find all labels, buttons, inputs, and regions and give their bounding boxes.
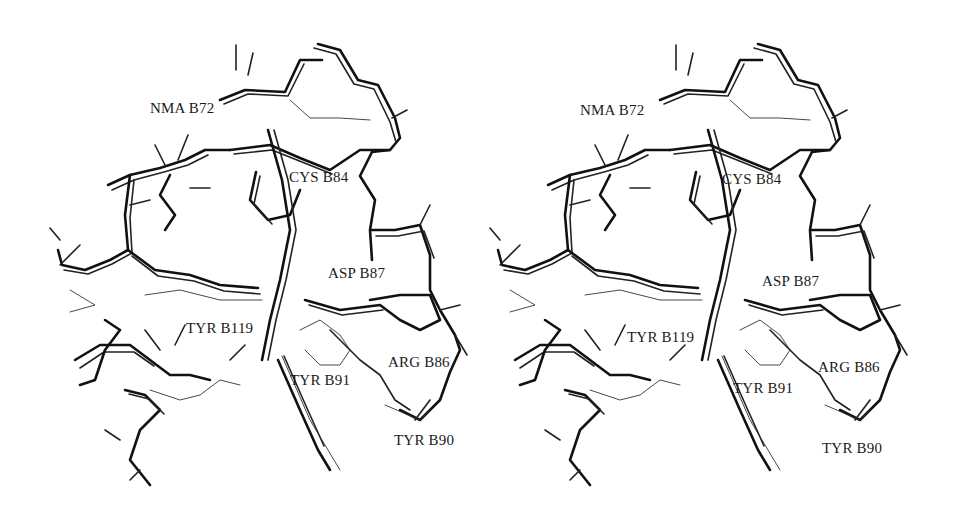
backbone-strands [50,44,467,485]
residue-label-tyr-b91: TYR B91 [290,373,350,388]
backbone-strands [490,44,907,485]
stereo-panel-left: NMA B72 CYS B84 ASP B87 TYR B119 TYR B91… [0,0,483,517]
residue-label-asp-b87: ASP B87 [762,274,819,289]
residue-label-cys-b84: CYS B84 [289,170,348,185]
residue-label-tyr-b119: TYR B119 [627,330,694,345]
residue-label-arg-b86: ARG B86 [818,360,880,375]
residue-label-tyr-b91: TYR B91 [733,381,793,396]
residue-label-tyr-b119: TYR B119 [186,321,253,336]
residue-label-nma-b72: NMA B72 [150,101,214,116]
residue-label-cys-b84: CYS B84 [722,172,781,187]
residue-label-nma-b72: NMA B72 [580,103,644,118]
residue-label-asp-b87: ASP B87 [328,266,385,281]
residue-label-tyr-b90: TYR B90 [822,441,882,456]
